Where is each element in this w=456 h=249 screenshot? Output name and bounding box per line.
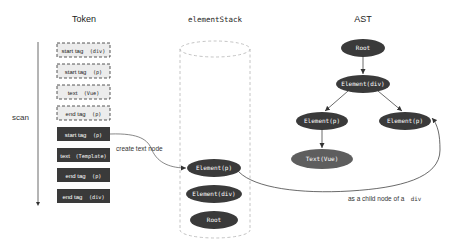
svg-text:start tag (p): start tag (p) [65, 60, 103, 77]
svg-text:end tag (div): end tag (div) [62, 185, 104, 202]
token-label: text [60, 153, 70, 159]
column-title-token: Token [72, 14, 96, 24]
token-arg: (p) [92, 111, 101, 118]
token-arg: (p) [92, 173, 101, 180]
token-item: text (Vue) [57, 81, 110, 100]
ast-node-root: Root [341, 39, 385, 57]
svg-text:end tag (p): end tag (p) [66, 102, 102, 119]
scan-arrow-head-icon [36, 202, 40, 206]
stack-item: Element(p) [187, 159, 241, 177]
cylinder-top [180, 41, 250, 57]
stack-item: Root [190, 211, 238, 229]
token-arg: (Vue) [84, 90, 100, 96]
token-label: start tag [65, 132, 87, 138]
token-label: text [68, 90, 78, 96]
token-item: start tag (p) [57, 123, 110, 142]
token-arg: (p) [93, 69, 102, 76]
ast-node-label: Element(p) [387, 117, 423, 125]
ast-node-label: Element(div) [341, 80, 384, 87]
stack-item-label: Element(div) [192, 190, 235, 197]
token-item: end tag (p) [57, 102, 110, 121]
scan-label: scan [12, 113, 29, 122]
ast-node-text-vue: Text(Vue) [291, 149, 353, 169]
token-label: start tag [65, 69, 87, 75]
ast-node-label: Text(Vue) [306, 155, 339, 162]
token-item: start tag (div) [57, 39, 110, 58]
svg-text:end tag (p): end tag (p) [66, 164, 102, 181]
token-label: start tag [62, 48, 84, 54]
token-item: text (Template) [57, 144, 110, 163]
annotation-create-text-node: create text node [116, 145, 163, 152]
token-item: start tag (p) [57, 60, 110, 79]
token-list: start tag (div) start tag (p) text (Vue)… [57, 39, 110, 204]
token-arg: (Template) [75, 153, 106, 160]
annotation-child-of-prefix: as a child node of a [348, 195, 405, 202]
stack-item-label: Element(p) [196, 164, 232, 172]
element-stack-cylinder [180, 41, 250, 238]
token-label: end tag [66, 173, 86, 179]
ast-edge-div-p-right [378, 91, 402, 111]
annotation-child-of-tag: div [411, 196, 422, 202]
diagram-canvas: Token elementStack AST scan start tag (d… [0, 0, 456, 249]
svg-text:as a child node of a div: as a child node of a div [348, 187, 422, 204]
svg-text:start tag (p): start tag (p) [65, 123, 103, 140]
svg-text:text (Vue): text (Vue) [68, 81, 100, 98]
ast-node-element-p-right: Element(p) [379, 112, 431, 130]
svg-text:start tag (div): start tag (div) [62, 39, 106, 56]
token-label: end tag [62, 194, 82, 200]
stack-item: Element(div) [186, 185, 242, 203]
column-title-element-stack: elementStack [188, 15, 243, 24]
token-item: end tag (p) [57, 164, 110, 183]
ast-node-label: Element(p) [304, 117, 340, 125]
token-item: end tag (div) [57, 185, 110, 204]
cylinder-bottom [180, 230, 250, 238]
token-arg: (p) [93, 132, 102, 139]
token-arg: (div) [90, 48, 106, 54]
token-arg: (div) [89, 194, 105, 200]
stack-item-label: Root [207, 216, 222, 223]
token-label: end tag [66, 111, 86, 117]
column-title-ast: AST [354, 14, 372, 24]
svg-text:text (Template): text (Template) [60, 144, 106, 161]
ast-node-element-div: Element(div) [336, 75, 390, 93]
ast-node-label: Root [356, 44, 371, 51]
ast-node-element-p-left: Element(p) [296, 112, 348, 130]
ast-edge-div-p-left [325, 91, 348, 111]
